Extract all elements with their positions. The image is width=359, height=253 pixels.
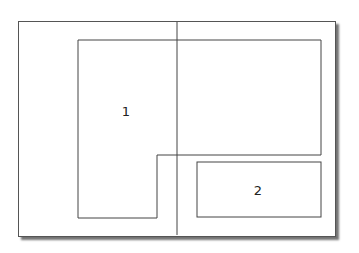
region-1-outline (78, 40, 321, 218)
region-2-label: 2 (254, 183, 262, 198)
region-1-label: 1 (122, 104, 130, 119)
layout-diagram (0, 0, 359, 253)
